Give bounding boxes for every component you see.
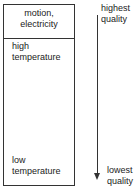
label-line: quality	[101, 14, 130, 25]
label-line: electricity	[4, 19, 74, 30]
energy-quality-box: motion, electricity high temperature low…	[3, 4, 75, 186]
label-line: lowest	[107, 165, 133, 176]
label-line: quality	[107, 176, 133, 187]
high-temperature-label: high temperature	[12, 41, 61, 63]
label-line: motion,	[4, 8, 74, 19]
label-line: low	[12, 155, 61, 166]
highest-quality-label: highest quality	[101, 3, 130, 25]
label-line: highest	[101, 3, 130, 14]
label-line: temperature	[12, 166, 61, 177]
divider	[4, 38, 74, 39]
label-line: temperature	[12, 52, 61, 63]
motion-electricity-label: motion, electricity	[4, 8, 74, 30]
lowest-quality-label: lowest quality	[107, 165, 133, 187]
arrow-down-icon	[94, 173, 100, 180]
quality-arrow-line	[97, 15, 98, 175]
label-line: high	[12, 41, 61, 52]
low-temperature-label: low temperature	[12, 155, 61, 177]
